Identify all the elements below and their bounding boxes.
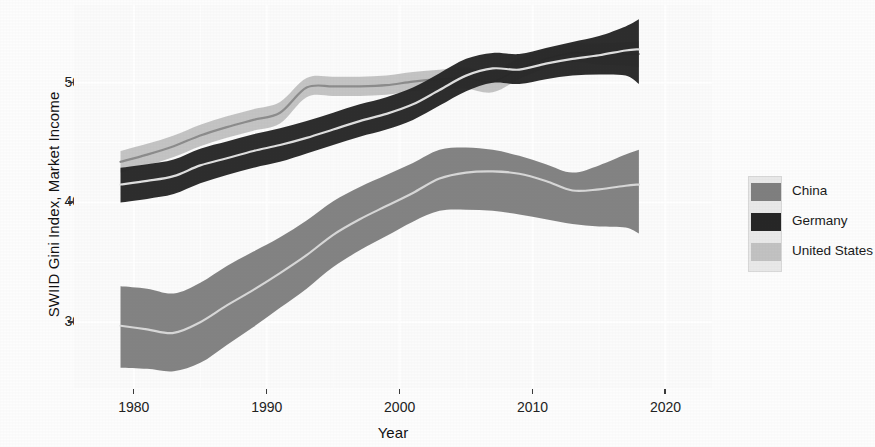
legend-label-germany: Germany xyxy=(792,212,848,230)
x-tick-mark xyxy=(399,389,401,394)
x-axis-title: Year xyxy=(74,424,712,441)
legend-swatch-united-states xyxy=(751,243,781,261)
x-tick-mark xyxy=(664,389,666,394)
x-tick-mark xyxy=(133,389,135,394)
x-tick-mark xyxy=(266,389,268,394)
y-tick-mark xyxy=(68,201,73,203)
legend-swatch-china xyxy=(751,183,781,201)
y-tick-mark xyxy=(68,82,73,84)
plot-panel xyxy=(74,5,712,388)
legend-label-china: China xyxy=(792,182,827,200)
x-tick-label: 1980 xyxy=(104,399,164,415)
plot-area xyxy=(74,5,712,388)
x-tick-mark xyxy=(532,389,534,394)
gini-index-area-chart: SWIID Gini Index, Market Income Year 304… xyxy=(0,0,875,447)
x-tick-label: 2010 xyxy=(503,399,563,415)
x-tick-label: 2020 xyxy=(635,399,695,415)
legend-label-united-states: United States xyxy=(792,242,873,260)
x-tick-label: 1990 xyxy=(237,399,297,415)
legend: ChinaGermanyUnited States xyxy=(748,176,868,274)
legend-swatch-germany xyxy=(751,213,781,231)
y-tick-mark xyxy=(68,321,73,323)
x-tick-label: 2000 xyxy=(370,399,430,415)
legend-swatch-column xyxy=(748,176,782,272)
